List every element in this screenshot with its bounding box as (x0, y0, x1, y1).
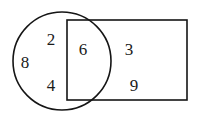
number-label-8: 8 (21, 54, 30, 71)
number-label-9: 9 (130, 77, 139, 94)
rectangle-outline-icon (67, 20, 187, 100)
number-label-3: 3 (125, 41, 134, 58)
number-label-2: 2 (47, 31, 56, 48)
diagram-canvas: 2 8 4 6 3 9 (0, 0, 199, 119)
number-label-4: 4 (47, 77, 56, 94)
number-label-6: 6 (79, 41, 88, 58)
venn-diagram-graphic (0, 0, 199, 119)
